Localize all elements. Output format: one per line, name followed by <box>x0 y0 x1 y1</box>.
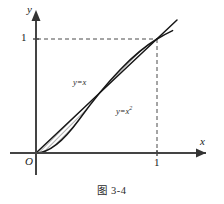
x-axis-label: x <box>200 136 205 147</box>
y-tick-label-1: 1 <box>21 32 27 43</box>
curve-label-parabola-base: y=x <box>116 106 129 116</box>
curve-label-line: y=x <box>73 78 86 87</box>
figure-caption: 图 3-4 <box>0 182 224 197</box>
curve-label-parabola: y=x2 <box>116 107 132 116</box>
y-axis-label: y <box>27 4 32 15</box>
curves-group <box>36 20 177 153</box>
x-tick-label-1: 1 <box>154 157 160 168</box>
coordinate-plot <box>0 0 224 204</box>
origin-label: O <box>25 156 33 167</box>
curve-label-parabola-exponent: 2 <box>129 105 132 111</box>
figure-container: y x O 1 1 y=x y=x2 图 3-4 <box>0 0 224 204</box>
x-axis-arrowhead <box>196 149 206 158</box>
y-axis-arrowhead <box>32 10 41 21</box>
